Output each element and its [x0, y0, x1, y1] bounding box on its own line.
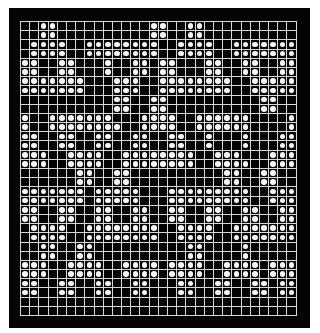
dot-cell-off[interactable] [95, 298, 104, 307]
dot-cell-off[interactable] [150, 252, 159, 261]
dot-cell-off[interactable] [251, 31, 260, 40]
dot-cell-off[interactable] [196, 307, 205, 316]
dot-cell-off[interactable] [177, 68, 186, 77]
dot-cell-on[interactable] [287, 77, 296, 86]
dot-cell-off[interactable] [242, 307, 251, 316]
dot-cell-off[interactable] [95, 96, 104, 105]
dot-cell-off[interactable] [205, 307, 214, 316]
dot-cell-off[interactable] [251, 114, 260, 123]
dot-cell-off[interactable] [67, 169, 76, 178]
dot-cell-off[interactable] [232, 86, 241, 95]
dot-cell-on[interactable] [76, 187, 85, 196]
dot-cell-on[interactable] [287, 50, 296, 59]
dot-cell-on[interactable] [131, 160, 140, 169]
dot-cell-on[interactable] [223, 151, 232, 160]
dot-cell-off[interactable] [122, 243, 131, 252]
dot-cell-off[interactable] [67, 298, 76, 307]
dot-cell-on[interactable] [177, 206, 186, 215]
dot-cell-off[interactable] [49, 132, 58, 141]
dot-cell-off[interactable] [214, 31, 223, 40]
dot-cell-off[interactable] [223, 215, 232, 224]
dot-cell-on[interactable] [95, 288, 104, 297]
dot-cell-on[interactable] [177, 132, 186, 141]
dot-cell-off[interactable] [251, 132, 260, 141]
dot-cell-off[interactable] [287, 252, 296, 261]
dot-cell-on[interactable] [122, 77, 131, 86]
dot-cell-off[interactable] [232, 215, 241, 224]
dot-cell-off[interactable] [150, 141, 159, 150]
dot-cell-off[interactable] [214, 22, 223, 31]
dot-cell-on[interactable] [131, 59, 140, 68]
dot-cell-off[interactable] [168, 224, 177, 233]
dot-cell-off[interactable] [104, 86, 113, 95]
dot-cell-off[interactable] [76, 224, 85, 233]
dot-cell-off[interactable] [214, 105, 223, 114]
dot-cell-on[interactable] [140, 224, 149, 233]
dot-cell-off[interactable] [278, 22, 287, 31]
dot-cell-off[interactable] [168, 96, 177, 105]
dot-cell-on[interactable] [168, 206, 177, 215]
dot-cell-on[interactable] [186, 22, 195, 31]
dot-cell-on[interactable] [205, 50, 214, 59]
dot-cell-on[interactable] [287, 288, 296, 297]
dot-cell-on[interactable] [76, 270, 85, 279]
dot-cell-on[interactable] [67, 114, 76, 123]
dot-cell-on[interactable] [177, 261, 186, 270]
dot-cell-on[interactable] [85, 178, 94, 187]
dot-cell-off[interactable] [122, 279, 131, 288]
dot-cell-off[interactable] [122, 22, 131, 31]
dot-cell-on[interactable] [104, 215, 113, 224]
dot-cell-off[interactable] [21, 178, 30, 187]
dot-cell-on[interactable] [186, 86, 195, 95]
dot-cell-on[interactable] [21, 215, 30, 224]
dot-cell-on[interactable] [205, 197, 214, 206]
dot-cell-on[interactable] [205, 206, 214, 215]
dot-cell-on[interactable] [278, 187, 287, 196]
dot-cell-off[interactable] [159, 141, 168, 150]
dot-cell-off[interactable] [85, 86, 94, 95]
dot-cell-on[interactable] [251, 224, 260, 233]
dot-cell-off[interactable] [39, 105, 48, 114]
dot-cell-off[interactable] [159, 252, 168, 261]
dot-cell-off[interactable] [232, 96, 241, 105]
dot-cell-on[interactable] [269, 160, 278, 169]
dot-cell-off[interactable] [260, 270, 269, 279]
dot-cell-off[interactable] [232, 243, 241, 252]
dot-cell-off[interactable] [186, 105, 195, 114]
dot-cell-on[interactable] [214, 187, 223, 196]
dot-cell-off[interactable] [113, 243, 122, 252]
dot-cell-off[interactable] [85, 279, 94, 288]
dot-cell-off[interactable] [58, 270, 67, 279]
dot-cell-off[interactable] [122, 59, 131, 68]
dot-cell-off[interactable] [67, 96, 76, 105]
dot-cell-off[interactable] [287, 105, 296, 114]
dot-cell-off[interactable] [140, 178, 149, 187]
dot-cell-on[interactable] [131, 206, 140, 215]
dot-cell-off[interactable] [67, 31, 76, 40]
dot-cell-on[interactable] [85, 169, 94, 178]
dot-cell-on[interactable] [186, 187, 195, 196]
dot-cell-on[interactable] [278, 160, 287, 169]
dot-cell-on[interactable] [242, 206, 251, 215]
dot-cell-on[interactable] [242, 215, 251, 224]
dot-cell-off[interactable] [76, 215, 85, 224]
dot-cell-on[interactable] [85, 160, 94, 169]
dot-cell-on[interactable] [232, 197, 241, 206]
dot-cell-on[interactable] [269, 105, 278, 114]
dot-cell-off[interactable] [269, 132, 278, 141]
dot-cell-on[interactable] [122, 160, 131, 169]
dot-cell-off[interactable] [76, 68, 85, 77]
dot-cell-off[interactable] [186, 141, 195, 150]
dot-cell-off[interactable] [21, 31, 30, 40]
dot-cell-on[interactable] [30, 132, 39, 141]
dot-cell-on[interactable] [223, 270, 232, 279]
dot-cell-on[interactable] [21, 160, 30, 169]
dot-cell-on[interactable] [287, 132, 296, 141]
dot-cell-on[interactable] [242, 114, 251, 123]
dot-cell-on[interactable] [196, 22, 205, 31]
dot-cell-off[interactable] [159, 40, 168, 49]
dot-cell-on[interactable] [232, 261, 241, 270]
dot-cell-off[interactable] [85, 197, 94, 206]
dot-cell-off[interactable] [85, 187, 94, 196]
dot-cell-off[interactable] [159, 206, 168, 215]
